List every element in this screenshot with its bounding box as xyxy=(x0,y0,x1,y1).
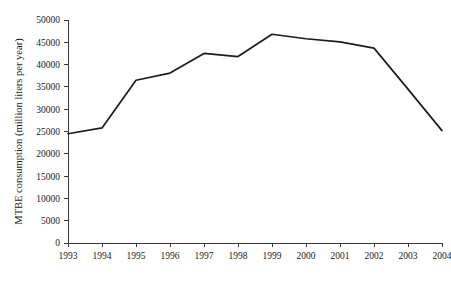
x-tick-label: 1998 xyxy=(229,251,248,261)
y-tick-label: 25000 xyxy=(36,127,60,137)
y-axis-label: MTBE consumption (million liters per yea… xyxy=(13,38,25,225)
y-tick-label: 10000 xyxy=(36,194,60,204)
x-tick-label: 1995 xyxy=(127,251,146,261)
y-axis-label-text: MTBE consumption (million liters per yea… xyxy=(13,38,25,225)
x-tick-label: 1993 xyxy=(59,251,78,261)
y-tick-label: 35000 xyxy=(36,82,60,92)
y-tick-label: 5000 xyxy=(41,216,60,226)
y-tick-label: 45000 xyxy=(36,38,60,48)
y-tick-label: 15000 xyxy=(36,172,60,182)
x-tick-label: 1994 xyxy=(93,251,112,261)
y-tick-label: 40000 xyxy=(36,60,60,70)
y-tick-label: 50000 xyxy=(36,15,60,25)
x-tick-label: 1997 xyxy=(195,251,214,261)
x-tick-label: 2000 xyxy=(297,251,316,261)
y-tick-label: 20000 xyxy=(36,149,60,159)
x-tick-label: 2002 xyxy=(365,251,384,261)
x-tick-label: 1999 xyxy=(263,251,282,261)
chart-container: 0500010000150002000025000300003500040000… xyxy=(0,0,451,282)
y-tick-label: 30000 xyxy=(36,105,60,115)
y-tick-label: 0 xyxy=(55,238,60,248)
line-chart: 0500010000150002000025000300003500040000… xyxy=(0,0,451,282)
x-tick-label: 2003 xyxy=(399,251,418,261)
x-tick-label: 2004 xyxy=(433,251,451,261)
x-tick-label: 1996 xyxy=(161,251,180,261)
x-tick-label: 2001 xyxy=(331,251,350,261)
